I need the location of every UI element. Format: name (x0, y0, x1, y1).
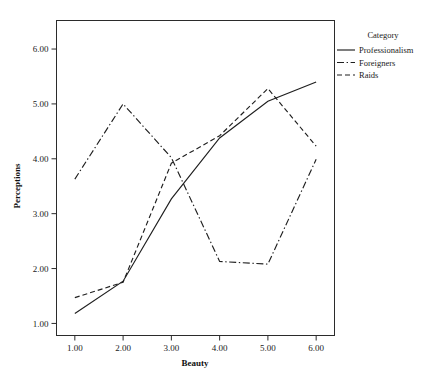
legend-items: ProfessionalismForeignersRaids (337, 45, 414, 80)
chart-legend: Category ProfessionalismForeignersRaids (337, 30, 414, 80)
series-line-professionalism (75, 82, 316, 314)
x-axis-title: Beauty (182, 358, 210, 368)
series-line-raids (75, 89, 316, 298)
x-tick-label: 3.00 (163, 343, 179, 353)
y-axis-title: Perceptions (12, 163, 22, 208)
legend-label-raids: Raids (359, 70, 378, 80)
x-tick-label: 2.00 (115, 343, 131, 353)
y-axis-ticks: 1.002.003.004.005.006.00 (33, 44, 57, 328)
y-tick-label: 1.00 (33, 319, 49, 329)
x-tick-label: 4.00 (212, 343, 228, 353)
line-chart: 1.002.003.004.005.006.00 1.002.003.004.0… (0, 0, 425, 373)
x-axis-ticks: 1.002.003.004.005.006.00 (67, 336, 325, 353)
chart-canvas: 1.002.003.004.005.006.00 1.002.003.004.0… (0, 0, 425, 373)
plot-frame (57, 21, 335, 336)
x-tick-label: 5.00 (260, 343, 276, 353)
legend-title: Category (367, 30, 399, 40)
x-tick-label: 6.00 (308, 343, 324, 353)
y-tick-label: 2.00 (33, 264, 49, 274)
legend-label-foreigners: Foreigners (359, 58, 395, 68)
y-tick-label: 3.00 (33, 209, 49, 219)
data-series-group (75, 82, 316, 314)
y-tick-label: 4.00 (33, 154, 49, 164)
y-tick-label: 5.00 (33, 99, 49, 109)
x-tick-label: 1.00 (67, 343, 83, 353)
y-tick-label: 6.00 (33, 44, 49, 54)
legend-label-professionalism: Professionalism (359, 45, 414, 55)
series-line-foreigners (75, 104, 316, 264)
